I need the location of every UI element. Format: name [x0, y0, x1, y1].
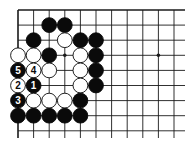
white-stone[interactable]	[73, 78, 88, 93]
stone-circle	[73, 108, 88, 123]
black-stone-move-5[interactable]: 5	[11, 63, 26, 78]
stones-layer: 54213	[11, 18, 104, 123]
stone-circle	[57, 18, 72, 33]
black-stone[interactable]	[42, 48, 57, 63]
black-stone-move-1[interactable]: 1	[26, 78, 41, 93]
stone-circle	[73, 93, 88, 108]
white-stone[interactable]	[26, 48, 41, 63]
stone-circle	[89, 33, 104, 48]
white-stone[interactable]	[42, 63, 57, 78]
black-stone[interactable]	[26, 108, 41, 123]
star-point-icon	[157, 54, 161, 58]
stone-circle	[11, 108, 26, 123]
black-stone[interactable]	[89, 33, 104, 48]
stone-circle	[26, 48, 41, 63]
black-stone-move-3[interactable]: 3	[11, 93, 26, 108]
move-number-label: 1	[31, 80, 37, 91]
stone-circle	[73, 48, 88, 63]
black-stone[interactable]	[26, 33, 41, 48]
black-stone[interactable]	[11, 108, 26, 123]
white-stone-move-4[interactable]: 4	[26, 63, 41, 78]
stone-circle	[73, 78, 88, 93]
black-stone[interactable]	[89, 78, 104, 93]
move-number-label: 3	[15, 95, 21, 106]
stone-circle	[73, 33, 88, 48]
stone-circle	[89, 78, 104, 93]
stone-circle	[26, 33, 41, 48]
stone-circle	[42, 63, 57, 78]
stone-circle	[26, 93, 41, 108]
stone-circle	[42, 108, 57, 123]
move-number-label: 5	[15, 65, 21, 76]
white-stone[interactable]	[57, 33, 72, 48]
go-board[interactable]: 54213	[0, 0, 195, 149]
stone-circle	[89, 63, 104, 78]
stone-circle	[89, 48, 104, 63]
stone-circle	[42, 93, 57, 108]
black-stone[interactable]	[42, 18, 57, 33]
black-stone[interactable]	[42, 108, 57, 123]
white-stone[interactable]	[57, 93, 72, 108]
stone-circle	[42, 48, 57, 63]
stone-circle	[57, 33, 72, 48]
white-stone[interactable]	[42, 93, 57, 108]
white-stone-move-2[interactable]: 2	[11, 78, 26, 93]
black-stone[interactable]	[57, 108, 72, 123]
stone-circle	[57, 93, 72, 108]
stone-circle	[42, 18, 57, 33]
black-stone[interactable]	[73, 33, 88, 48]
white-stone[interactable]	[11, 48, 26, 63]
stone-circle	[73, 63, 88, 78]
white-stone[interactable]	[73, 63, 88, 78]
stone-circle	[57, 108, 72, 123]
stone-circle	[11, 48, 26, 63]
stone-circle	[26, 108, 41, 123]
black-stone[interactable]	[89, 48, 104, 63]
black-stone[interactable]	[73, 108, 88, 123]
black-stone[interactable]	[73, 93, 88, 108]
black-stone[interactable]	[89, 63, 104, 78]
white-stone[interactable]	[26, 93, 41, 108]
star-point-icon	[63, 54, 67, 58]
move-number-label: 2	[15, 80, 21, 91]
black-stone[interactable]	[57, 18, 72, 33]
white-stone[interactable]	[73, 48, 88, 63]
move-number-label: 4	[31, 65, 37, 76]
